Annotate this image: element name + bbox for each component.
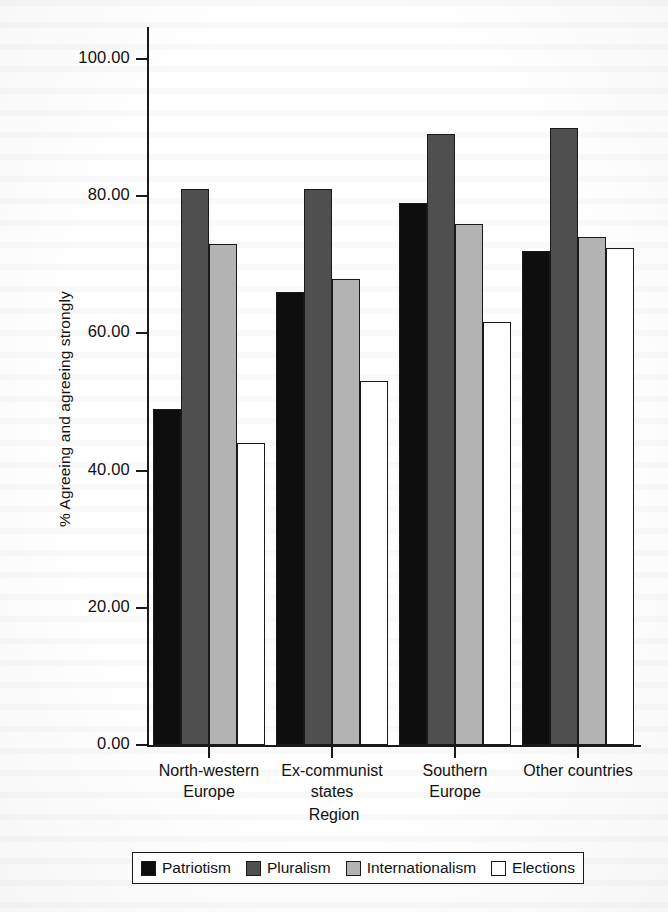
bar-internationalism-group-3 [578, 237, 606, 745]
x-axis-title: Region [0, 806, 668, 824]
bar-patriotism-group-3 [522, 251, 550, 745]
legend-label: Pluralism [267, 859, 331, 877]
legend-item-patriotism[interactable]: Patriotism [141, 859, 231, 877]
bar-internationalism-group-2 [455, 224, 483, 745]
y-axis-title: % Agreeing and agreeing strongly [56, 159, 74, 659]
x-axis-tick [454, 747, 456, 758]
bar-pluralism-group-0 [181, 189, 209, 745]
bar-patriotism-group-2 [399, 203, 427, 745]
y-axis-tick [136, 195, 147, 197]
y-axis-tick-label: 100.00 [0, 48, 130, 67]
x-axis-tick [331, 747, 333, 758]
legend-swatch-icon [346, 861, 361, 876]
legend-label: Elections [512, 859, 575, 877]
bar-internationalism-group-1 [332, 279, 360, 745]
y-axis-tick [136, 607, 147, 609]
x-axis-line [147, 745, 641, 747]
bar-elections-group-3 [606, 248, 634, 745]
grouped-bar-chart: 0.0020.0040.0060.0080.00100.00 % Agreein… [0, 0, 668, 912]
legend-label: Internationalism [367, 859, 476, 877]
bar-pluralism-group-3 [550, 128, 578, 745]
bar-pluralism-group-1 [304, 189, 332, 745]
bar-patriotism-group-1 [276, 292, 304, 745]
y-axis-tick [136, 744, 147, 746]
y-axis-line [147, 27, 149, 747]
bar-elections-group-1 [360, 381, 388, 745]
chart-legend: PatriotismPluralismInternationalismElect… [132, 852, 584, 884]
legend-item-pluralism[interactable]: Pluralism [246, 859, 331, 877]
legend-swatch-icon [246, 861, 261, 876]
legend-label: Patriotism [162, 859, 231, 877]
legend-item-elections[interactable]: Elections [491, 859, 575, 877]
x-axis-tick [208, 747, 210, 758]
bar-elections-group-0 [237, 443, 265, 745]
bar-elections-group-2 [483, 322, 511, 745]
y-axis-tick-label: 0.00 [0, 734, 130, 753]
y-axis-tick [136, 470, 147, 472]
x-axis-tick [577, 747, 579, 758]
bar-pluralism-group-2 [427, 134, 455, 745]
legend-swatch-icon [141, 861, 156, 876]
bar-internationalism-group-0 [209, 244, 237, 745]
legend-item-internationalism[interactable]: Internationalism [346, 859, 476, 877]
y-axis-tick [136, 332, 147, 334]
bar-patriotism-group-0 [153, 409, 181, 745]
legend-swatch-icon [491, 861, 506, 876]
x-axis-category-label: Other countries [498, 760, 658, 781]
y-axis-tick [136, 58, 147, 60]
